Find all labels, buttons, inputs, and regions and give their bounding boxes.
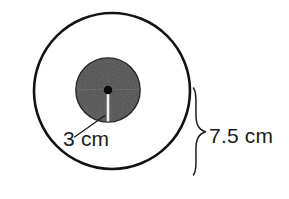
concentric-circles-figure: [0, 0, 289, 199]
outer-radius-label: 7.5 cm: [209, 125, 273, 146]
center-dot: [104, 86, 113, 95]
inner-radius-label: 3 cm: [63, 128, 109, 149]
diagram-canvas: 3 cm 7.5 cm: [0, 0, 289, 199]
